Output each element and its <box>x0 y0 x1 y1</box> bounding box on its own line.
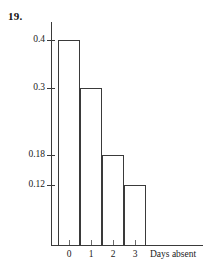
x-axis-tick <box>91 240 92 245</box>
histogram-bar <box>124 185 146 245</box>
x-axis-label: 2 <box>105 250 121 260</box>
x-axis-title: Days absent <box>150 250 196 260</box>
y-axis-label: 0.12 <box>28 180 45 190</box>
x-axis-label: 0 <box>61 250 77 260</box>
y-axis-label-wrap: 0.12 <box>0 180 45 190</box>
histogram-bar <box>58 40 80 245</box>
y-axis-tick <box>47 185 55 186</box>
y-axis-label-wrap: 0.18 <box>0 150 45 160</box>
y-axis-tick <box>47 88 55 89</box>
plot-area: 0.40.30.180.12 0123 Days absent <box>0 0 213 273</box>
x-axis-label: 3 <box>127 250 143 260</box>
y-axis-label: 0.18 <box>28 150 45 160</box>
histogram-bar <box>102 155 124 245</box>
histogram-figure: 19. 0.40.30.180.12 0123 Days absent <box>0 0 213 273</box>
y-axis-label: 0.4 <box>33 35 45 45</box>
y-axis-tick <box>47 155 55 156</box>
y-axis-label-wrap: 0.3 <box>0 83 45 93</box>
y-axis-label: 0.3 <box>33 83 45 93</box>
y-axis-tick <box>47 40 55 41</box>
x-axis-tick <box>113 240 114 245</box>
x-axis-label: 1 <box>83 250 99 260</box>
histogram-bar <box>80 88 102 245</box>
x-axis-tick <box>135 240 136 245</box>
x-axis-tick <box>69 240 70 245</box>
y-axis-line <box>51 22 52 246</box>
x-axis-line <box>51 245 203 246</box>
y-axis-label-wrap: 0.4 <box>0 35 45 45</box>
